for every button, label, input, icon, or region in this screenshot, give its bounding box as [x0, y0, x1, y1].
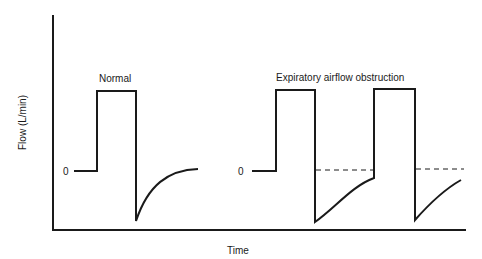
- zero-label-obstruction: 0: [238, 166, 244, 177]
- y-axis-label: Flow (L/min): [17, 95, 28, 150]
- obstruction-title: Expiratory airflow obstruction: [276, 72, 404, 83]
- normal-title: Normal: [99, 73, 131, 84]
- flow-time-diagram: Flow (L/min) Time Normal 0 Expiratory ai…: [0, 0, 482, 259]
- x-axis-label: Time: [227, 245, 249, 256]
- zero-label-normal: 0: [63, 166, 69, 177]
- obstruction-flow-trace: [252, 89, 461, 222]
- normal-flow-trace: [74, 91, 198, 221]
